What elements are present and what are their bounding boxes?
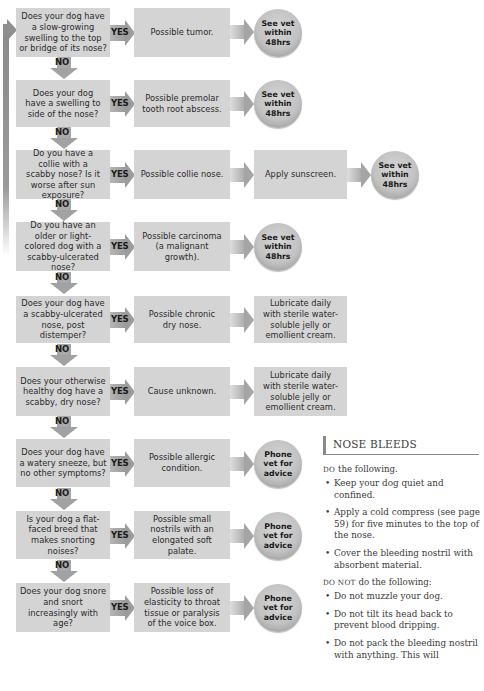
yes-label: YES: [111, 314, 128, 324]
yes-arrow: YES: [110, 20, 134, 46]
action-box: Lubricate daily with sterile water-solub…: [254, 296, 347, 343]
question-box: Do you have a collie with a scabby nose?…: [16, 150, 110, 199]
question-box: Is your dog a flat-faced breed that make…: [16, 511, 110, 559]
result-box: Possible tumor.: [134, 8, 230, 57]
result-text: Possible allergic condition.: [147, 452, 217, 473]
yes-label: YES: [111, 98, 128, 108]
question-text: Does your dog snore and snort increasing…: [19, 586, 107, 628]
advice-circle: Phone vet for advice: [254, 512, 302, 560]
question-text: Does your dog have a slow-growing swelli…: [19, 11, 107, 53]
result-text: Cause unknown.: [148, 386, 217, 397]
yes-arrow: YES: [110, 451, 134, 477]
yes-label: YES: [111, 458, 128, 468]
yes-arrow: YES: [110, 595, 134, 621]
next-arrow: [230, 451, 254, 477]
do-item: Keep your dog quiet and confined.: [323, 478, 484, 501]
result-text: Possible premolar tooth root abscess.: [142, 93, 222, 114]
do-list: Keep your dog quiet and confined. Apply …: [323, 478, 484, 571]
no-label: NO: [55, 416, 69, 426]
no-arrow: NO: [50, 488, 78, 512]
next-arrow: [230, 234, 254, 260]
no-label: NO: [55, 488, 69, 498]
dont-item: Do not tilt its head back to prevent blo…: [323, 609, 484, 632]
do-heading-rest: the following.: [335, 464, 397, 474]
yes-arrow: YES: [110, 234, 134, 260]
question-text: Does your dog have a scabby-ulcerated no…: [19, 298, 107, 340]
yes-arrow: YES: [110, 307, 134, 333]
result-box: Cause unknown.: [134, 367, 230, 416]
next-arrow: [230, 595, 254, 621]
do-heading-caps: DO: [323, 465, 335, 474]
title-rule: [323, 454, 479, 455]
question-box: Does your dog have a swelling to side of…: [16, 80, 110, 127]
next-arrow: [347, 162, 371, 188]
action-text: Lubricate daily with sterile water-solub…: [262, 298, 340, 340]
advice-circle: See vet within 48hrs: [254, 80, 302, 128]
result-box: Possible allergic condition.: [134, 439, 230, 487]
question-text: Do you have a collie with a scabby nose?…: [24, 148, 102, 201]
question-box: Does your dog have a slow-growing swelli…: [16, 8, 110, 57]
advice-circle: See vet within 48hrs: [254, 9, 302, 57]
yes-label: YES: [111, 386, 128, 396]
question-text: Is your dog a flat-faced breed that make…: [26, 514, 100, 556]
result-text: Possible loss of elasticity to throat ti…: [142, 586, 222, 628]
advice-text: See vet within 48hrs: [258, 233, 298, 261]
question-box: Does your dog have a watery sneeze, but …: [16, 439, 110, 487]
question-text: Does your dog have a swelling to side of…: [24, 88, 102, 120]
next-arrow: [230, 307, 254, 333]
advice-circle: See vet within 48hrs: [371, 151, 419, 199]
next-arrow: [230, 91, 254, 117]
result-text: Possible tumor.: [150, 27, 213, 38]
no-arrow: NO: [50, 560, 78, 584]
dont-heading: DO NOT do the following:: [323, 577, 484, 587]
yes-label: YES: [111, 602, 128, 612]
question-text: Does your otherwise healthy dog have a s…: [20, 376, 106, 408]
dont-item: Do not muzzle your dog.: [323, 591, 484, 603]
nose-bleeds-panel: NOSE BLEEDS DO the following. Keep your …: [323, 436, 484, 667]
no-label: NO: [55, 127, 69, 137]
no-label: NO: [55, 344, 69, 354]
advice-circle: Phone vet for advice: [254, 584, 302, 632]
dont-heading-rest: do the following:: [356, 577, 432, 587]
advice-text: See vet within 48hrs: [375, 161, 415, 189]
question-text: Does your dog have a watery sneeze, but …: [19, 447, 107, 479]
no-arrow: NO: [50, 344, 78, 368]
advice-text: Phone vet for advice: [260, 594, 296, 622]
yes-label: YES: [111, 27, 128, 37]
action-box: Lubricate daily with sterile water-solub…: [254, 367, 347, 416]
yes-label: YES: [111, 241, 128, 251]
do-heading: DO the following.: [323, 464, 484, 474]
do-item: Cover the bleeding nostril with absorben…: [323, 548, 484, 571]
advice-text: See vet within 48hrs: [258, 19, 298, 47]
no-label: NO: [55, 560, 69, 570]
result-text: Possible small nostrils with an elongate…: [137, 514, 227, 556]
flow-entry-arrow: [3, 19, 16, 41]
dont-heading-caps: DO NOT: [323, 578, 356, 587]
result-box: Possible carcinoma (a malignant growth).: [134, 222, 230, 271]
result-box: Possible premolar tooth root abscess.: [134, 80, 230, 127]
dont-item: Do not pack the bleeding nostril with an…: [323, 638, 484, 661]
no-arrow: NO: [50, 57, 78, 81]
yes-arrow: YES: [110, 162, 134, 188]
result-box: Possible small nostrils with an elongate…: [134, 511, 230, 559]
yes-label: YES: [111, 169, 128, 179]
question-box: Does your dog have a scabby-ulcerated no…: [16, 296, 110, 343]
yes-arrow: YES: [110, 379, 134, 405]
question-text: Do you have an older or light-colored do…: [20, 220, 106, 273]
nose-bleeds-title: NOSE BLEEDS: [323, 436, 484, 454]
no-arrow: NO: [50, 272, 78, 296]
no-label: NO: [55, 57, 69, 67]
next-arrow: [230, 379, 254, 405]
result-box: Possible collie nose.: [134, 150, 230, 199]
advice-circle: Phone vet for advice: [254, 440, 302, 488]
question-box: Do you have an older or light-colored do…: [16, 222, 110, 271]
question-box: Does your otherwise healthy dog have a s…: [16, 367, 110, 416]
advice-text: Phone vet for advice: [260, 522, 296, 550]
dont-list: Do not muzzle your dog. Do not tilt its …: [323, 591, 484, 661]
no-arrow: NO: [50, 416, 78, 440]
action-text: Apply sunscreen.: [265, 169, 336, 180]
advice-circle: See vet within 48hrs: [254, 223, 302, 271]
result-text: Possible collie nose.: [141, 169, 224, 180]
action-box: Apply sunscreen.: [254, 150, 347, 199]
no-label: NO: [55, 199, 69, 209]
